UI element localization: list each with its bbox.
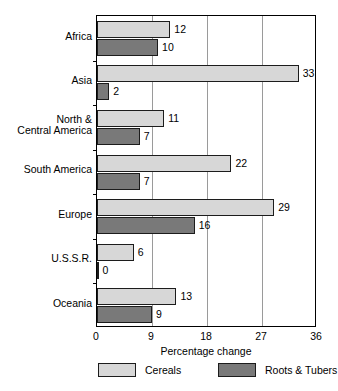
plot-area: 1210332117227291660139 — [96, 15, 316, 327]
category-label: U.S.S.R. — [0, 253, 92, 265]
legend-label-roots-tubers: Roots & Tubers — [265, 364, 337, 376]
bar — [97, 262, 99, 279]
category-label: South America — [0, 164, 92, 176]
bar — [97, 288, 176, 305]
category-label: Africa — [0, 31, 92, 43]
category-tick — [93, 283, 97, 284]
bar-value-label: 33 — [303, 65, 315, 82]
bar — [97, 173, 140, 190]
bar-value-label: 2 — [113, 83, 119, 100]
category-tick — [93, 61, 97, 62]
bar — [97, 155, 231, 172]
bar — [97, 83, 109, 100]
bar — [97, 217, 195, 234]
legend-swatch-roots-tubers — [218, 363, 256, 377]
x-tick-label-36: 36 — [301, 330, 331, 342]
bar-value-label: 7 — [144, 173, 150, 190]
bar — [97, 244, 134, 261]
legend-swatch-cereals — [98, 363, 136, 377]
bar-value-label: 22 — [235, 155, 247, 172]
bar-value-label: 7 — [144, 128, 150, 145]
bar — [97, 110, 164, 127]
bar — [97, 21, 170, 38]
gridline-27 — [262, 16, 263, 326]
legend-item-cereals: Cereals — [98, 363, 181, 377]
category-label: Europe — [0, 209, 92, 221]
x-tick-label-0: 0 — [81, 330, 111, 342]
x-tick-label-9: 9 — [136, 330, 166, 342]
category-label: Oceania — [0, 298, 92, 310]
x-tick-label-18: 18 — [191, 330, 221, 342]
bar — [97, 306, 152, 323]
legend-label-cereals: Cereals — [145, 364, 181, 376]
category-tick — [93, 194, 97, 195]
bar-value-label: 13 — [180, 288, 192, 305]
x-tick-label-27: 27 — [246, 330, 276, 342]
bar-value-label: 29 — [278, 199, 290, 216]
bar-value-label: 16 — [199, 217, 211, 234]
legend: Cereals Roots & Tubers — [0, 363, 338, 387]
category-tick — [93, 239, 97, 240]
bar-value-label: 12 — [174, 21, 186, 38]
bar-value-label: 11 — [168, 110, 179, 127]
category-label: North & Central America — [0, 114, 92, 137]
category-tick — [93, 150, 97, 151]
bar-value-label: 6 — [138, 244, 144, 261]
x-axis-title: Percentage change — [96, 345, 316, 357]
bar — [97, 39, 158, 56]
legend-item-roots-tubers: Roots & Tubers — [218, 363, 337, 377]
bar — [97, 128, 140, 145]
category-tick — [93, 105, 97, 106]
bar-chart: 1210332117227291660139 AfricaAsiaNorth &… — [0, 0, 338, 391]
bar — [97, 199, 274, 216]
bar — [97, 65, 299, 82]
bar-value-label: 0 — [103, 262, 109, 279]
bar-value-label: 10 — [162, 39, 174, 56]
bar-value-label: 9 — [156, 306, 162, 323]
category-label: Asia — [0, 75, 92, 87]
